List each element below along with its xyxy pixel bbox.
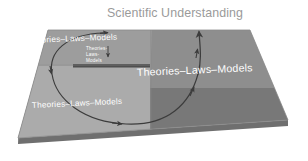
label-inner-line-1: Theories- bbox=[86, 46, 107, 51]
quadrant-seam-horizontal-left bbox=[6, 65, 150, 66]
quadrant-bottom-right bbox=[150, 88, 300, 150]
figure-canvas: Scientific Understanding Theories–Laws–M… bbox=[0, 0, 308, 161]
label-inner-line-2: Laws- bbox=[86, 52, 100, 57]
page-title: Scientific Understanding bbox=[107, 6, 243, 20]
label-inner-line-3: Models bbox=[86, 58, 103, 63]
scientific-understanding-diagram: Scientific Understanding Theories–Laws–M… bbox=[0, 0, 308, 161]
